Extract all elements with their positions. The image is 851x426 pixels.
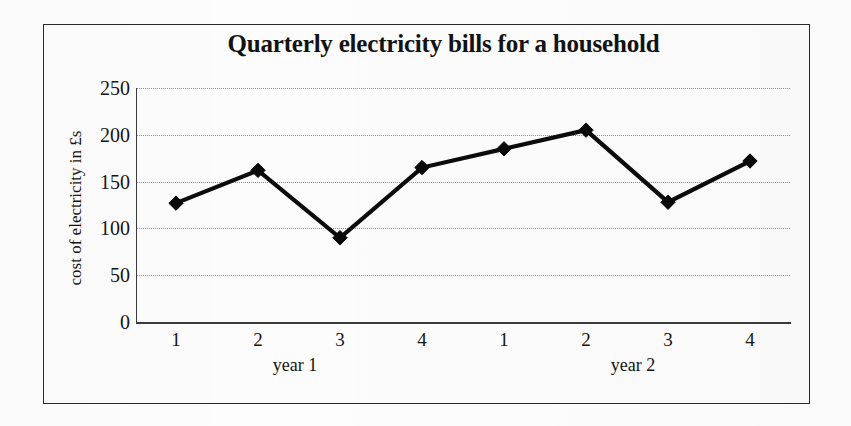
x-tick-label-5: 1: [484, 329, 524, 351]
x-tick-label-4: 4: [402, 329, 442, 351]
data-point-marker: [743, 154, 757, 168]
chart-screenshot: Quarterly electricity bills for a househ…: [0, 0, 851, 426]
series-line: [176, 130, 750, 238]
series-plot: [0, 0, 851, 426]
x-group-label-year-2: year 2: [563, 355, 703, 376]
x-tick-label-7: 3: [648, 329, 688, 351]
x-tick-label-8: 4: [730, 329, 770, 351]
data-point-marker: [497, 142, 511, 156]
x-tick-label-2: 2: [238, 329, 278, 351]
x-group-label-year-1: year 1: [225, 355, 365, 376]
data-point-marker: [169, 196, 183, 210]
x-tick-label-3: 3: [320, 329, 360, 351]
series-markers: [169, 123, 757, 245]
x-tick-label-1: 1: [156, 329, 196, 351]
x-tick-label-6: 2: [566, 329, 606, 351]
